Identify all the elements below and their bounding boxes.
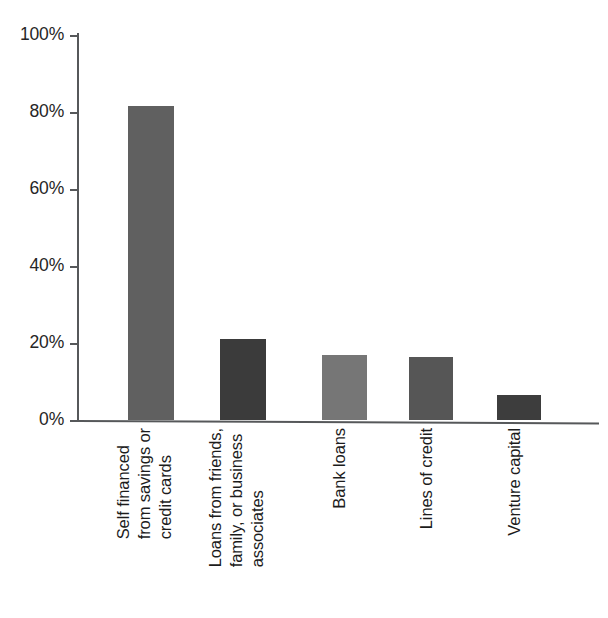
y-tick-mark-80 — [70, 112, 77, 114]
x-category-label-2: Bank loans — [329, 428, 350, 509]
y-tick-mark-20 — [70, 343, 77, 345]
bar-chart: 100% 80% 60% 40% 20% 0% Self — [0, 0, 608, 618]
y-tick-mark-0 — [70, 420, 77, 422]
bar-0[interactable] — [128, 106, 174, 420]
y-tick-mark-60 — [70, 189, 77, 191]
y-tick-mark-40 — [70, 266, 77, 268]
y-tick-label-60: 60% — [0, 180, 64, 198]
y-tick-label-0: 0% — [0, 411, 64, 429]
x-category-label-3: Lines of credit — [416, 428, 437, 529]
plot-area — [77, 35, 600, 420]
bar-3[interactable] — [409, 357, 453, 420]
x-category-label-4: Venture capital — [504, 428, 525, 536]
y-tick-label-20: 20% — [0, 334, 64, 352]
x-axis-line — [77, 420, 599, 424]
bar-4[interactable] — [497, 395, 541, 420]
bar-2[interactable] — [322, 355, 367, 420]
y-tick-label-40: 40% — [0, 257, 64, 275]
x-category-label-1: Loans from friends, family, or business … — [205, 428, 268, 567]
bar-1[interactable] — [220, 339, 266, 420]
x-category-label-0: Self financed from savings or credit car… — [113, 428, 176, 539]
y-tick-mark-100 — [70, 35, 77, 37]
y-tick-label-100: 100% — [0, 26, 64, 44]
y-tick-label-80: 80% — [0, 103, 64, 121]
